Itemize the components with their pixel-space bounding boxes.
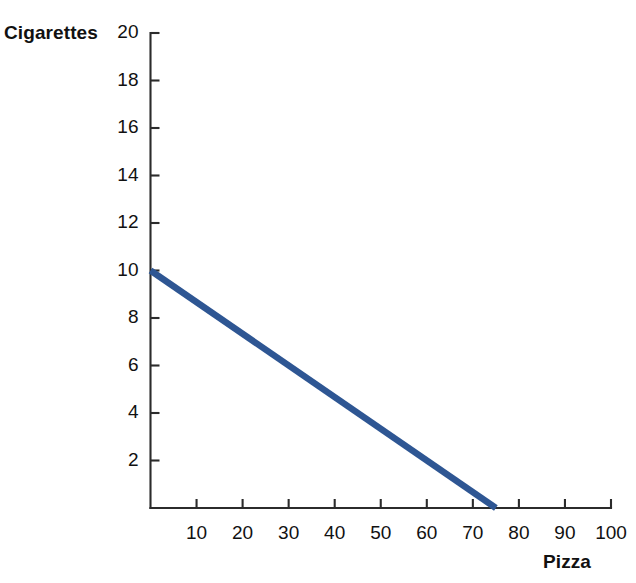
chart-figure: Cigarettes Pizza 2468101214161820 102030…: [0, 0, 636, 583]
data-series: [151, 271, 496, 509]
axes: [151, 33, 612, 508]
series-line-budget-constraint: [151, 271, 496, 509]
plot-area: [0, 0, 636, 583]
tick-marks: [151, 33, 612, 508]
